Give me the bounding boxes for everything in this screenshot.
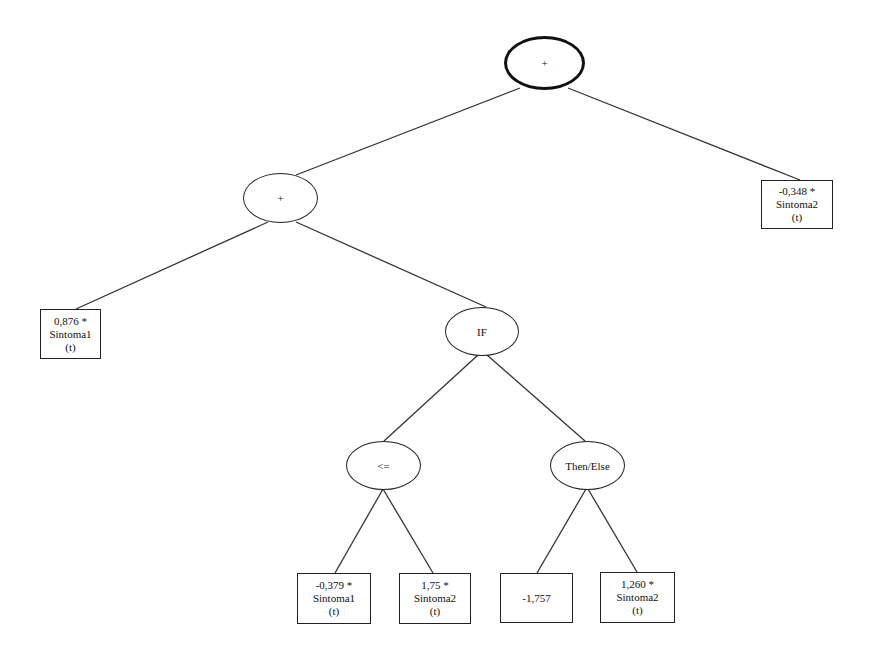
leaf-coefficient: 0,876 * <box>54 315 87 328</box>
leaf-time: (t) <box>430 605 440 618</box>
edge-le-leaf-b <box>383 489 433 573</box>
leaf-variable: Sintoma1 <box>49 328 91 341</box>
leaf-time: (t) <box>632 604 642 617</box>
edge-if-then-else <box>487 355 585 441</box>
leaf-constant: -1,757 <box>522 592 550 605</box>
node-label: + <box>541 57 547 69</box>
plus-node: + <box>243 173 318 223</box>
node-label: + <box>277 192 283 204</box>
leaf-coefficient: -0,379 * <box>316 579 353 592</box>
edge-then-else-leaf-c <box>537 489 586 573</box>
leaf-node-right: -0,348 * Sintoma2 (t) <box>761 180 833 229</box>
node-label: Then/Else <box>565 460 610 472</box>
leaf-node-left: 0,876 * Sintoma1 (t) <box>40 309 101 359</box>
leaf-node-d: 1,260 * Sintoma2 (t) <box>600 572 675 623</box>
leaf-variable: Sintoma2 <box>776 198 818 211</box>
tree-edges <box>0 0 872 658</box>
edge-if-le <box>384 355 478 441</box>
leaf-variable: Sintoma2 <box>414 592 456 605</box>
leaf-time: (t) <box>329 605 339 618</box>
leaf-time: (t) <box>65 341 75 354</box>
then-else-node: Then/Else <box>550 441 625 490</box>
leaf-node-a: -0,379 * Sintoma1 (t) <box>297 573 371 624</box>
edge-then-else-leaf-d <box>588 489 637 572</box>
leaf-node-b: 1,75 * Sintoma2 (t) <box>399 573 471 624</box>
leaf-coefficient: -0,348 * <box>779 185 816 198</box>
edge-root-right-leaf <box>568 88 800 180</box>
leaf-coefficient: 1,75 * <box>421 579 449 592</box>
if-node: IF <box>445 307 519 356</box>
leaf-variable: Sintoma2 <box>616 591 658 604</box>
node-label: <= <box>377 460 389 472</box>
edge-plus-left-leaf <box>76 222 268 309</box>
leaf-node-c: -1,757 <box>500 573 573 623</box>
less-equal-node: <= <box>346 441 421 490</box>
node-label: IF <box>477 326 487 338</box>
leaf-coefficient: 1,260 * <box>621 578 654 591</box>
edge-le-leaf-a <box>335 489 383 573</box>
edge-plus-if <box>296 222 486 307</box>
leaf-time: (t) <box>792 211 802 224</box>
leaf-variable: Sintoma1 <box>313 592 355 605</box>
edge-root-plus <box>296 88 520 175</box>
root-plus-node: + <box>504 36 585 90</box>
